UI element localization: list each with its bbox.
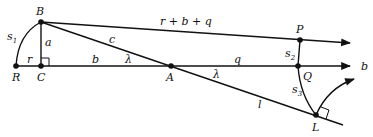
label-s2: s2	[285, 47, 296, 62]
label-p: P	[295, 23, 304, 36]
label-r-seg: r	[27, 53, 33, 66]
label-top-line: r + b + q	[160, 15, 212, 28]
label-q-seg: q	[234, 53, 241, 66]
point-q	[295, 63, 301, 69]
geometry-diagram: B R C A P Q L s1 a r b c λ λ q l r + b +…	[0, 0, 373, 137]
curve-arrow-l	[316, 79, 354, 115]
point-c	[38, 63, 44, 69]
label-b-seg: b	[92, 53, 99, 66]
label-a: A	[165, 71, 174, 84]
label-a-seg: a	[45, 36, 52, 49]
label-c: C	[37, 71, 46, 84]
label-lambda-left: λ	[124, 53, 132, 66]
line-b-l	[41, 22, 343, 125]
label-b-axis: b	[361, 60, 368, 73]
label-r: R	[11, 71, 20, 84]
label-b: B	[35, 5, 44, 18]
point-l	[313, 112, 319, 118]
label-q: Q	[303, 70, 312, 83]
point-a	[168, 63, 174, 69]
label-l: L	[311, 121, 319, 134]
point-r	[13, 63, 19, 69]
label-lambda-right: λ	[212, 68, 220, 81]
label-s1: s1	[7, 30, 17, 45]
point-b	[38, 19, 44, 25]
label-c-seg: c	[109, 33, 115, 46]
label-l-seg: l	[258, 98, 262, 111]
point-p	[297, 37, 303, 43]
